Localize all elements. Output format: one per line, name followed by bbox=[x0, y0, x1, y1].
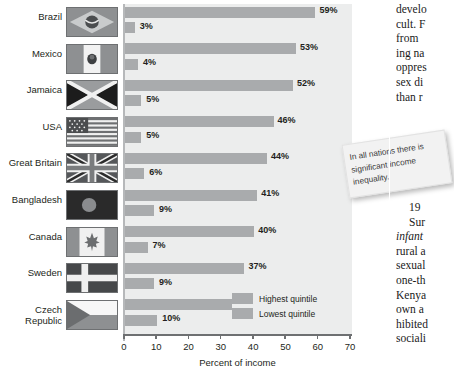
flag-jamaica-icon bbox=[66, 80, 118, 110]
chart-row: USA46%5% bbox=[0, 114, 352, 151]
bar-highest-quintile bbox=[125, 43, 296, 54]
x-axis-tick-label: 40 bbox=[248, 341, 259, 352]
legend-swatch-lowest-quintile bbox=[232, 308, 253, 319]
x-axis-tick-label: 70 bbox=[345, 341, 356, 352]
x-axis-tick bbox=[284, 334, 286, 339]
bar-value-highest-quintile: 46% bbox=[278, 115, 296, 125]
body-text-line: Sur bbox=[396, 215, 450, 230]
legend-label-lowest-quintile: Lowest quintile bbox=[259, 309, 315, 319]
body-text-line: infant bbox=[396, 229, 450, 244]
flag-bangladesh-icon bbox=[66, 190, 118, 220]
country-label: USA bbox=[0, 121, 62, 132]
x-axis-tick bbox=[317, 334, 319, 339]
bar-lowest-quintile bbox=[125, 59, 138, 70]
body-text-line: develo bbox=[396, 2, 450, 17]
bar-highest-quintile bbox=[125, 80, 293, 91]
bar-value-highest-quintile: 53% bbox=[300, 42, 318, 52]
bar-lowest-quintile bbox=[125, 242, 148, 253]
flag-canada-icon bbox=[66, 227, 118, 257]
column-divider bbox=[389, 0, 390, 384]
x-axis-title: Percent of income bbox=[123, 357, 352, 368]
x-axis-tick-label: 10 bbox=[151, 341, 162, 352]
x-axis-tick bbox=[349, 334, 351, 339]
bar-lowest-quintile bbox=[125, 168, 144, 179]
legend-label-highest-quintile: Highest quintile bbox=[259, 294, 317, 304]
bar-value-highest-quintile: 37% bbox=[248, 261, 266, 271]
chart-row: Canada40%7% bbox=[0, 224, 352, 261]
bar-value-lowest-quintile: 10% bbox=[162, 313, 180, 323]
country-label: Great Britain bbox=[0, 157, 62, 168]
country-label: Mexico bbox=[0, 48, 62, 59]
x-axis-tick bbox=[123, 334, 125, 339]
bar-value-lowest-quintile: 3% bbox=[140, 21, 153, 31]
bar-highest-quintile bbox=[125, 190, 257, 201]
flag-czech-republic-icon bbox=[66, 300, 118, 330]
x-axis-tick bbox=[220, 334, 222, 339]
bar-lowest-quintile bbox=[125, 315, 157, 326]
body-text-top-column: develocult. Ffroming naoppressex dithan … bbox=[396, 2, 450, 104]
bar-lowest-quintile bbox=[125, 22, 135, 33]
country-label: Sweden bbox=[0, 267, 62, 278]
flag-great-britain-icon bbox=[66, 153, 118, 183]
body-text-line: than r bbox=[396, 90, 450, 105]
body-text-line: 19 bbox=[396, 200, 450, 215]
bar-lowest-quintile bbox=[125, 132, 141, 143]
bar-highest-quintile bbox=[125, 299, 241, 310]
bar-value-highest-quintile: 59% bbox=[319, 5, 337, 15]
body-text-line: Kenya bbox=[396, 288, 450, 303]
body-text-line: from bbox=[396, 31, 450, 46]
country-label: Bangladesh bbox=[0, 194, 62, 205]
legend-swatch-highest-quintile bbox=[232, 293, 253, 304]
bar-highest-quintile bbox=[125, 153, 267, 164]
bar-value-highest-quintile: 40% bbox=[258, 225, 276, 235]
bar-value-lowest-quintile: 5% bbox=[146, 94, 159, 104]
callout-note: In all nations there is significant inco… bbox=[342, 130, 453, 199]
body-text-line: ing na bbox=[396, 46, 450, 61]
bar-value-highest-quintile: 44% bbox=[271, 151, 289, 161]
bar-highest-quintile bbox=[125, 226, 254, 237]
x-axis-tick-label: 50 bbox=[280, 341, 291, 352]
callout-note-text: In all nations there is significant inco… bbox=[349, 137, 453, 189]
chart-panel: Brazil59%3%Mexico53%4%Jamaica52%5%USA46%… bbox=[0, 0, 352, 384]
x-axis-tick-label: 0 bbox=[121, 341, 126, 352]
body-text-line: rural a bbox=[396, 244, 450, 259]
body-text-line: hibited bbox=[396, 317, 450, 332]
bar-lowest-quintile bbox=[125, 205, 154, 216]
chart-row: Great Britain44%6% bbox=[0, 150, 352, 187]
flag-usa-icon bbox=[66, 117, 118, 147]
country-label: Brazil bbox=[0, 11, 62, 22]
chart-row: Mexico53%4% bbox=[0, 41, 352, 78]
bar-lowest-quintile bbox=[125, 95, 141, 106]
x-axis-tick-label: 60 bbox=[312, 341, 323, 352]
country-label: Jamaica bbox=[0, 84, 62, 95]
bar-lowest-quintile bbox=[125, 278, 154, 289]
flag-brazil-icon bbox=[66, 7, 118, 37]
chart-legend: Highest quintile Lowest quintile bbox=[232, 292, 317, 322]
x-axis-tick bbox=[155, 334, 157, 339]
x-axis-tick-label: 20 bbox=[183, 341, 194, 352]
legend-item-lowest-quintile: Lowest quintile bbox=[232, 307, 317, 320]
bar-highest-quintile bbox=[125, 116, 274, 127]
body-text-line: own a bbox=[396, 302, 450, 317]
body-text-line: sexual bbox=[396, 258, 450, 273]
bar-value-lowest-quintile: 9% bbox=[159, 204, 172, 214]
bar-value-lowest-quintile: 4% bbox=[143, 57, 156, 67]
bar-value-lowest-quintile: 6% bbox=[149, 167, 162, 177]
bar-value-highest-quintile: 52% bbox=[297, 78, 315, 88]
x-axis-tick bbox=[252, 334, 254, 339]
x-axis-tick-label: 30 bbox=[216, 341, 227, 352]
bar-highest-quintile bbox=[125, 263, 244, 274]
bar-value-lowest-quintile: 5% bbox=[146, 130, 159, 140]
bar-value-lowest-quintile: 7% bbox=[153, 240, 166, 250]
flag-sweden-icon bbox=[66, 263, 118, 293]
country-label: Canada bbox=[0, 231, 62, 242]
bar-value-lowest-quintile: 9% bbox=[159, 277, 172, 287]
flag-mexico-icon bbox=[66, 44, 118, 74]
body-text-line: oppres bbox=[396, 60, 450, 75]
body-text-line: cult. F bbox=[396, 17, 450, 32]
x-axis-tick bbox=[188, 334, 190, 339]
body-text-line: sex di bbox=[396, 75, 450, 90]
bar-highest-quintile bbox=[125, 7, 315, 18]
chart-row: Bangladesh41%9% bbox=[0, 187, 352, 224]
body-text-line: sociali bbox=[396, 331, 450, 346]
